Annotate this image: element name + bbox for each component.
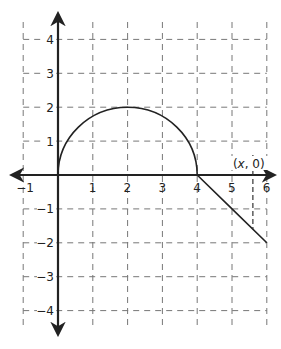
y-tick-label: −1	[36, 202, 54, 216]
y-tick-label: −3	[36, 270, 54, 284]
y-tick-label: 4	[46, 33, 54, 47]
y-tick-label: 2	[46, 101, 54, 115]
annotation: (x, 0)	[231, 156, 273, 171]
x-tick-label: −1	[16, 181, 34, 195]
x-tick-label: 1	[89, 181, 97, 195]
y-tick-label: −2	[36, 236, 54, 250]
x-tick-label: 6	[263, 181, 271, 195]
x-tick-label: 2	[124, 181, 132, 195]
function-graph: −11234564321−1−2−3−4 (x, 0)	[0, 0, 281, 349]
y-tick-label: −4	[36, 304, 54, 318]
x-tick-label: 4	[193, 181, 201, 195]
x-tick-label: 5	[228, 181, 236, 195]
axes	[12, 14, 274, 334]
x-tick-label: 3	[158, 181, 166, 195]
y-tick-label: 3	[46, 67, 54, 81]
y-tick-label: 1	[46, 135, 54, 149]
point-label-x-0: (x, 0)	[233, 157, 265, 171]
